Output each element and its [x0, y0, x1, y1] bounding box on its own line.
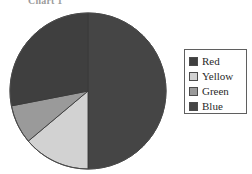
legend-label-blue: Blue: [202, 101, 223, 112]
legend-label-yellow: Yellow: [202, 71, 233, 82]
legend-item-yellow[interactable]: Yellow: [189, 69, 243, 83]
legend-swatch-red: [189, 57, 198, 66]
legend-label-red: Red: [202, 56, 220, 67]
chart-legend: Red Yellow Green Blue: [184, 49, 247, 114]
pie-chart-screenshot: Chart 1 Red Yellow Green Blue: [0, 0, 252, 174]
legend-swatch-blue: [189, 102, 198, 111]
pie-slice-blue[interactable]: [88, 13, 166, 169]
legend-item-red[interactable]: Red: [189, 54, 243, 68]
chart-title: Chart 1: [28, 0, 62, 6]
legend-swatch-yellow: [189, 72, 198, 81]
legend-label-green: Green: [202, 86, 229, 97]
legend-item-green[interactable]: Green: [189, 84, 243, 98]
pie-slice-red[interactable]: [10, 13, 88, 106]
legend-item-blue[interactable]: Blue: [189, 99, 243, 113]
pie-slice-group: [10, 13, 166, 169]
legend-swatch-green: [189, 87, 198, 96]
pie-chart-graphic: [9, 12, 167, 170]
pie-svg: [9, 12, 167, 170]
